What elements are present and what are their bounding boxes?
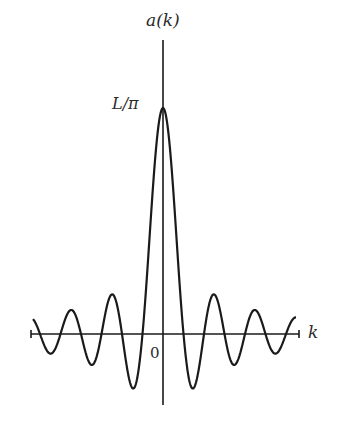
origin-label: 0: [150, 344, 160, 362]
sinc-plot: [0, 0, 342, 422]
y-axis-label: a(k): [146, 10, 180, 30]
sinc-curve: [33, 108, 296, 389]
x-axis-label: k: [308, 322, 318, 342]
peak-label: L/π: [112, 94, 139, 113]
